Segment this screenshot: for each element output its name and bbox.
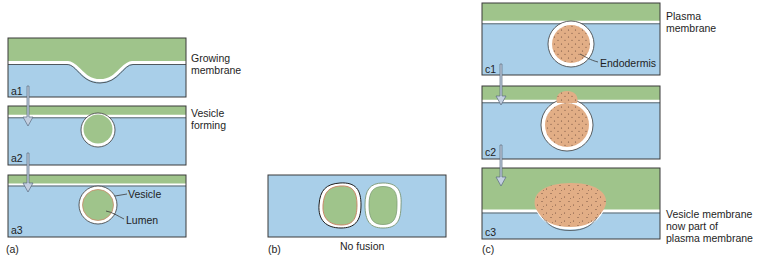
panel-c3 [482,168,660,239]
annotation-line: membrane [666,22,716,34]
caption-c: (c) [482,243,494,255]
annotation-line: Vesicle [191,107,226,119]
annotation-line: Plasma [666,10,716,22]
annotation-line: membrane [191,64,241,76]
step-label-a3: a3 [11,224,23,236]
step-label-c2: c2 [485,146,496,158]
annotation-plasma-membrane: Plasma membrane [666,10,716,34]
panel-b [268,175,446,237]
step-label-c1: c1 [485,63,496,75]
step-label-a1: a1 [11,85,23,97]
callout-lumen: Lumen [126,214,158,226]
annotation-line: forming [191,119,226,131]
step-label-a2: a2 [11,152,23,164]
annotation-line: Vesicle membrane [666,208,753,220]
caption-a: (a) [6,243,19,255]
panel-c2 [482,86,660,159]
callout-vesicle: Vesicle [128,188,161,200]
annotation-line: plasma membrane [666,232,753,244]
panel-a1 [8,38,186,97]
diagram-canvas [0,0,758,268]
callout-endodermis: Endodermis [600,57,656,69]
annotation-line: now part of [666,220,753,232]
panel-a3 [8,175,186,237]
caption-b: (b) [268,243,281,255]
annotation-line: Growing [191,52,241,64]
annotation-growing-membrane: Growing membrane [191,52,241,76]
subtitle-no-fusion: No fusion [340,240,384,252]
panel-a2 [8,106,186,165]
annotation-vesicle-forming: Vesicle forming [191,107,226,131]
step-label-c3: c3 [485,226,496,238]
annotation-vesicle-membrane: Vesicle membrane now part of plasma memb… [666,208,753,244]
